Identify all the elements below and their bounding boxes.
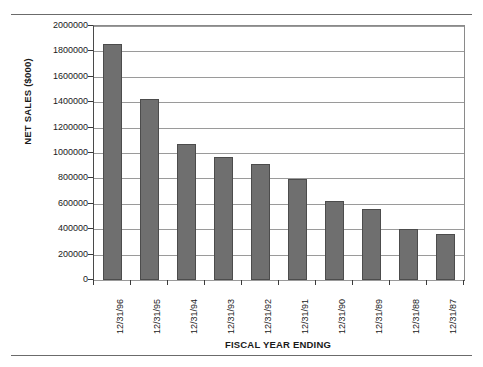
- x-tick-label: 12/31/89: [375, 299, 384, 334]
- x-label-slot: 12/31/94: [167, 286, 204, 336]
- bar[interactable]: [177, 144, 196, 280]
- x-label-slot: 12/31/91: [278, 286, 315, 336]
- x-label-slot: 12/31/89: [352, 286, 389, 336]
- bar-slot: [242, 26, 279, 280]
- x-axis-title: FISCAL YEAR ENDING: [93, 339, 463, 350]
- x-label-slot: 12/31/87: [426, 286, 463, 336]
- top-divider-rule: [11, 14, 472, 15]
- chart-figure: NET SALES ($000) 20000001800000160000014…: [0, 0, 483, 367]
- bar[interactable]: [251, 164, 270, 280]
- x-tick-label: 12/31/96: [116, 299, 125, 334]
- bar-slot: [168, 26, 205, 280]
- x-label-slot: 12/31/95: [130, 286, 167, 336]
- x-axis-tick-labels: 12/31/9612/31/9512/31/9412/31/9312/31/92…: [93, 286, 463, 336]
- x-tick-label: 12/31/95: [153, 299, 162, 334]
- x-tick-mark: [204, 280, 205, 285]
- bar[interactable]: [103, 44, 122, 280]
- x-tick-mark: [315, 280, 316, 285]
- bar-slot: [279, 26, 316, 280]
- bar-slot: [131, 26, 168, 280]
- x-tick-label: 12/31/93: [227, 299, 236, 334]
- x-tick-mark: [463, 280, 464, 285]
- bar[interactable]: [436, 234, 455, 280]
- x-label-slot: 12/31/92: [241, 286, 278, 336]
- x-label-slot: 12/31/93: [204, 286, 241, 336]
- bar[interactable]: [214, 157, 233, 280]
- x-tick-label: 12/31/88: [412, 299, 421, 334]
- bar-slot: [427, 26, 464, 280]
- x-tick-mark: [426, 280, 427, 285]
- x-label-slot: 12/31/96: [93, 286, 130, 336]
- x-tick-mark: [130, 280, 131, 285]
- x-tick-mark: [167, 280, 168, 285]
- x-tick-label: 12/31/92: [264, 299, 273, 334]
- x-tick-mark: [278, 280, 279, 285]
- bar-slot: [94, 26, 131, 280]
- x-tick-label: 12/31/91: [301, 299, 310, 334]
- x-label-slot: 12/31/90: [315, 286, 352, 336]
- bar-slot: [316, 26, 353, 280]
- x-tick-label: 12/31/87: [449, 299, 458, 334]
- x-axis-tick-marks: [93, 280, 465, 285]
- x-tick-label: 12/31/94: [190, 299, 199, 334]
- y-axis-tick-marks: [0, 25, 93, 279]
- x-tick-mark: [93, 280, 94, 285]
- x-tick-mark: [241, 280, 242, 285]
- bar-series: [94, 26, 464, 280]
- bar[interactable]: [362, 209, 381, 280]
- bar-slot: [205, 26, 242, 280]
- bar[interactable]: [288, 179, 307, 280]
- bar[interactable]: [325, 201, 344, 280]
- bottom-divider-rule: [11, 355, 472, 356]
- x-tick-mark: [389, 280, 390, 285]
- x-label-slot: 12/31/88: [389, 286, 426, 336]
- bar[interactable]: [140, 99, 159, 280]
- x-tick-mark: [352, 280, 353, 285]
- bar-slot: [390, 26, 427, 280]
- bar-slot: [353, 26, 390, 280]
- bar[interactable]: [399, 229, 418, 280]
- plot-area: [93, 25, 465, 281]
- x-tick-label: 12/31/90: [338, 299, 347, 334]
